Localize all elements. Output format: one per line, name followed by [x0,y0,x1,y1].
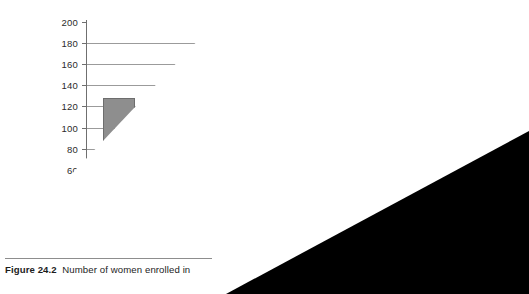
tickmark-60 [82,170,86,171]
tickmark-20 [82,212,86,213]
figure-caption-text: Number of women enrolled in [62,264,190,275]
scanned-book-page: 200 180 160 140 120 100 80 60 40 20 0 [0,0,529,294]
bar-18-19 [103,98,135,233]
figure-caption: Figure 24.2 Number of women enrolled in [5,264,265,275]
x-label-18-19: 18–19 [99,238,139,249]
tickmark-40 [82,191,86,192]
tickmark-0 [82,233,86,234]
bar-20-2 [159,112,191,233]
y-axis-line [86,20,87,234]
x-label-20-2: 20–2 [155,238,195,249]
caption-rule [5,258,212,259]
figure-caption-label: Figure 24.2 [5,264,57,275]
